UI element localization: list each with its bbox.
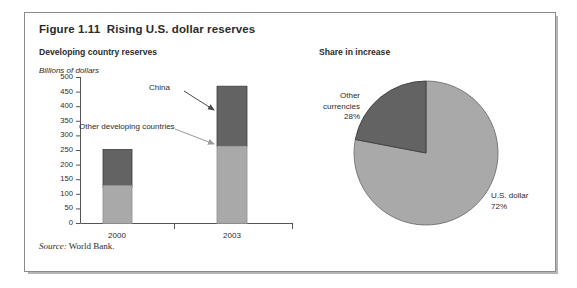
pie-chart-svg bbox=[25, 13, 557, 273]
source-note: Source: World Bank. bbox=[39, 241, 115, 251]
pie-label-us-dollar: U.S. dollar 72% bbox=[491, 191, 528, 212]
figure-frame: Figure 1.11 Rising U.S. dollar reserves … bbox=[24, 12, 556, 272]
pie-label-other-value: 28% bbox=[323, 112, 360, 123]
source-text: World Bank. bbox=[67, 241, 115, 251]
pie-label-other-line2: currencies bbox=[323, 102, 360, 113]
pie-chart: Other currencies 28% U.S. dollar 72% bbox=[25, 13, 557, 273]
pie-label-other-line1: Other bbox=[323, 91, 360, 102]
pie-label-usd-line1: U.S. dollar bbox=[491, 191, 528, 202]
pie-label-other-currencies: Other currencies 28% bbox=[323, 91, 360, 123]
source-prefix: Source: bbox=[39, 241, 67, 251]
pie-label-usd-value: 72% bbox=[491, 202, 528, 213]
